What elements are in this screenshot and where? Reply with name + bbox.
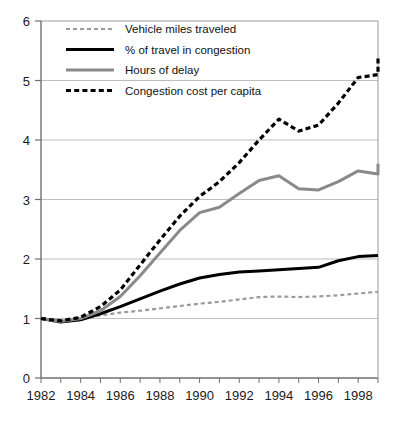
x-tick-label: 1986 — [106, 388, 135, 403]
legend-label: % of travel in congestion — [125, 44, 250, 56]
x-axis — [41, 378, 378, 383]
y-tick-label: 4 — [23, 133, 30, 148]
grid-lines — [41, 21, 378, 378]
x-tick-label: 1994 — [264, 388, 293, 403]
line-chart: 0123456 19821984198619881990199219941996… — [0, 0, 395, 423]
y-tick-label: 0 — [23, 371, 30, 386]
x-tick-label: 1982 — [27, 388, 56, 403]
y-tick-labels: 0123456 — [23, 14, 30, 386]
x-tick-label: 1996 — [304, 388, 333, 403]
y-tick-label: 1 — [23, 312, 30, 327]
x-tick-label: 1984 — [66, 388, 95, 403]
y-tick-label: 6 — [23, 14, 30, 29]
legend-label: Vehicle miles traveled — [125, 23, 236, 35]
x-tick-labels: 198219841986198819901992199419961998 — [27, 388, 373, 403]
y-tick-label: 2 — [23, 252, 30, 267]
y-axis — [35, 21, 41, 378]
x-tick-label: 1992 — [225, 388, 254, 403]
y-tick-label: 5 — [23, 74, 30, 89]
legend-label: Hours of delay — [125, 64, 199, 76]
chart-legend: Vehicle miles traveled% of travel in con… — [66, 23, 262, 97]
y-tick-label: 3 — [23, 193, 30, 208]
chart-container: 0123456 19821984198619881990199219941996… — [0, 0, 395, 423]
x-tick-label: 1990 — [185, 388, 214, 403]
x-tick-label: 1998 — [344, 388, 373, 403]
legend-label: Congestion cost per capita — [125, 85, 262, 97]
x-tick-label: 1988 — [145, 388, 174, 403]
